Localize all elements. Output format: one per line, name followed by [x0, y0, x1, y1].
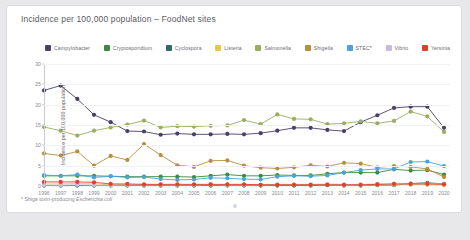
- data-point[interactable]: [425, 182, 429, 186]
- data-point[interactable]: [142, 175, 146, 179]
- data-point[interactable]: [242, 132, 246, 136]
- data-point[interactable]: [125, 182, 129, 186]
- data-point[interactable]: [342, 129, 346, 133]
- data-point[interactable]: [225, 173, 229, 177]
- data-point[interactable]: [392, 167, 396, 171]
- legend-item-campylobacter[interactable]: Campylobacter: [45, 45, 90, 51]
- data-point[interactable]: [225, 176, 229, 180]
- data-point[interactable]: [375, 182, 379, 186]
- data-point[interactable]: [142, 118, 146, 122]
- data-point[interactable]: [142, 182, 146, 186]
- data-point[interactable]: [325, 128, 329, 132]
- data-point[interactable]: [275, 129, 279, 133]
- data-point[interactable]: [75, 180, 79, 184]
- data-point[interactable]: [192, 177, 196, 181]
- data-point[interactable]: [242, 182, 246, 186]
- data-point[interactable]: [159, 133, 163, 137]
- data-point[interactable]: [75, 149, 79, 153]
- data-point[interactable]: [125, 129, 129, 133]
- data-point[interactable]: [275, 166, 279, 170]
- data-point[interactable]: [309, 117, 313, 121]
- data-point[interactable]: [342, 161, 346, 165]
- data-point[interactable]: [242, 177, 246, 181]
- data-point[interactable]: [109, 154, 113, 158]
- data-point[interactable]: [109, 120, 113, 124]
- data-point[interactable]: [409, 109, 413, 113]
- data-point[interactable]: [309, 183, 313, 187]
- data-point[interactable]: [375, 167, 379, 171]
- data-point[interactable]: [442, 130, 446, 134]
- data-point[interactable]: [75, 133, 79, 137]
- data-point[interactable]: [92, 129, 96, 133]
- data-point[interactable]: [442, 182, 446, 186]
- data-point[interactable]: [309, 126, 313, 130]
- data-point[interactable]: [325, 173, 329, 177]
- data-point[interactable]: [425, 167, 429, 171]
- data-point[interactable]: [225, 158, 229, 162]
- legend-item-cryptosporidium[interactable]: Cryptosporidium: [104, 45, 152, 51]
- data-point[interactable]: [92, 113, 96, 117]
- data-point[interactable]: [192, 182, 196, 186]
- data-point[interactable]: [359, 168, 363, 172]
- data-point[interactable]: [292, 117, 296, 121]
- data-point[interactable]: [392, 182, 396, 186]
- data-point[interactable]: [442, 175, 446, 179]
- data-point[interactable]: [175, 182, 179, 186]
- data-point[interactable]: [225, 132, 229, 136]
- data-point[interactable]: [292, 174, 296, 178]
- data-point[interactable]: [259, 131, 263, 135]
- data-point[interactable]: [375, 113, 379, 117]
- legend-item-stec[interactable]: STEC*: [347, 45, 372, 51]
- data-point[interactable]: [342, 183, 346, 187]
- data-point[interactable]: [109, 174, 113, 178]
- data-point[interactable]: [192, 132, 196, 136]
- data-point[interactable]: [175, 178, 179, 182]
- data-point[interactable]: [292, 183, 296, 187]
- data-point[interactable]: [292, 126, 296, 130]
- data-point[interactable]: [275, 183, 279, 187]
- data-point[interactable]: [159, 153, 163, 157]
- data-point[interactable]: [75, 173, 79, 177]
- data-point[interactable]: [242, 118, 246, 122]
- scroll-indicator-dot[interactable]: [233, 204, 237, 208]
- data-point[interactable]: [125, 158, 129, 162]
- legend-item-shigella[interactable]: Shigella: [305, 45, 333, 51]
- data-point[interactable]: [109, 182, 113, 186]
- data-point[interactable]: [392, 119, 396, 123]
- data-point[interactable]: [225, 182, 229, 186]
- data-point[interactable]: [375, 170, 379, 174]
- data-point[interactable]: [275, 175, 279, 179]
- data-point[interactable]: [409, 160, 413, 164]
- data-point[interactable]: [209, 132, 213, 136]
- legend-item-vibrio[interactable]: Vibrio: [386, 45, 409, 51]
- data-point[interactable]: [175, 131, 179, 135]
- data-point[interactable]: [442, 126, 446, 130]
- data-point[interactable]: [409, 168, 413, 172]
- legend-item-listeria[interactable]: Listeria: [215, 45, 242, 51]
- data-point[interactable]: [259, 177, 263, 181]
- data-point[interactable]: [209, 159, 213, 163]
- data-point[interactable]: [125, 175, 129, 179]
- data-point[interactable]: [159, 182, 163, 186]
- data-point[interactable]: [342, 170, 346, 174]
- data-point[interactable]: [142, 129, 146, 133]
- data-point[interactable]: [92, 180, 96, 184]
- data-point[interactable]: [425, 160, 429, 164]
- data-point[interactable]: [409, 182, 413, 186]
- data-point[interactable]: [275, 112, 279, 116]
- legend-item-cyclospora[interactable]: Cyclospora: [166, 45, 202, 51]
- data-point[interactable]: [309, 174, 313, 178]
- data-point[interactable]: [325, 183, 329, 187]
- legend-item-yersinia[interactable]: Yersinia: [422, 45, 450, 51]
- data-point[interactable]: [92, 175, 96, 179]
- data-point[interactable]: [425, 114, 429, 118]
- legend-item-salmonella[interactable]: Salmonella: [255, 45, 291, 51]
- data-point[interactable]: [209, 182, 213, 186]
- data-point[interactable]: [75, 97, 79, 101]
- data-point[interactable]: [259, 174, 263, 178]
- data-point[interactable]: [259, 183, 263, 187]
- data-point[interactable]: [392, 106, 396, 110]
- data-point[interactable]: [359, 183, 363, 187]
- data-point[interactable]: [159, 177, 163, 181]
- data-point[interactable]: [209, 176, 213, 180]
